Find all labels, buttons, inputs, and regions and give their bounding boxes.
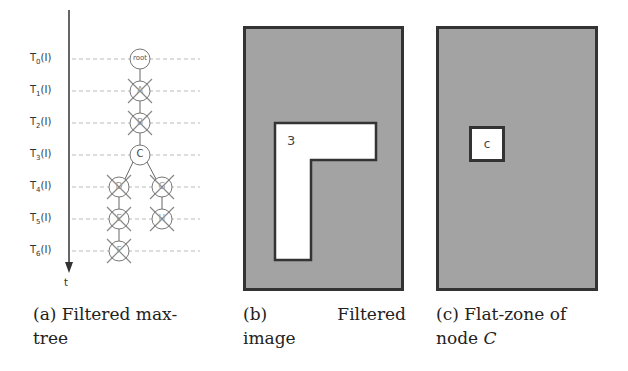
flat-zone-region: c (469, 126, 505, 162)
node-a-label: A (134, 85, 146, 95)
node-f-label: F (113, 245, 125, 255)
node-c-label: C (134, 148, 146, 159)
caption-c-prefix: node (436, 328, 484, 348)
caption-c-node: C (484, 328, 497, 348)
node-g-label: G (156, 181, 168, 191)
caption-b-word: Filtered (337, 302, 406, 326)
caption-a-line1: (a) Filtered max- (33, 302, 177, 326)
node-h-label: H (156, 213, 168, 223)
max-tree-diagram: root A B C D E F G H T0(I) T1(I) T2(I) T… (0, 0, 220, 295)
node-d-label: D (113, 181, 125, 191)
caption-b-line1: (b) Filtered (243, 302, 406, 326)
filtered-image-panel: 3 (243, 26, 404, 291)
level-label-2: T2(I) (30, 116, 51, 130)
level-label-4: T4(I) (30, 180, 51, 194)
l-shaped-region (243, 26, 404, 291)
caption-c: (c) Flat-zone of node C (436, 302, 566, 350)
node-root-label: root (130, 54, 150, 62)
caption-b-line2: image (243, 326, 406, 350)
level-label-0: T0(I) (30, 52, 51, 66)
flat-zone-panel: c (436, 26, 598, 291)
level-label-1: T1(I) (30, 84, 51, 98)
caption-b: (b) Filtered image (243, 302, 406, 350)
caption-a-line2: tree (33, 326, 177, 350)
level-label-3: T3(I) (30, 148, 51, 162)
level-label-6: T6(I) (30, 244, 51, 258)
caption-b-label: (b) (243, 302, 267, 326)
level-label-5: T5(I) (30, 212, 51, 226)
node-b-label: B (134, 117, 146, 127)
node-e-label: E (113, 213, 125, 223)
caption-a: (a) Filtered max- tree (33, 302, 177, 350)
region-c-label: c (472, 137, 502, 151)
region-3-label: 3 (287, 133, 295, 148)
caption-c-line1: (c) Flat-zone of (436, 302, 566, 326)
caption-c-line2: node C (436, 326, 566, 350)
time-axis-label: t (64, 277, 68, 288)
